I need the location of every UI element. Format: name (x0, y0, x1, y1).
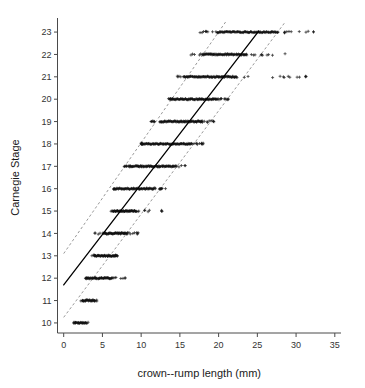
regression-fit-line (64, 31, 259, 285)
data-point (304, 75, 307, 78)
data-point (212, 120, 215, 123)
x-tick-label: 5 (100, 340, 105, 350)
y-tick-label: 15 (41, 206, 51, 216)
data-point (271, 54, 274, 57)
data-point (243, 76, 246, 79)
data-point (164, 187, 167, 190)
data-point (206, 121, 209, 124)
x-tick-label: 10 (136, 340, 146, 350)
data-point (279, 75, 282, 78)
y-tick-label: 22 (41, 50, 51, 60)
data-point (211, 30, 214, 33)
data-point (312, 30, 315, 33)
x-tick-label: 0 (61, 340, 66, 350)
y-tick-label: 12 (41, 273, 51, 283)
y-tick-label: 23 (41, 27, 51, 37)
y-tick-label: 19 (41, 117, 51, 127)
data-point (119, 277, 122, 280)
y-tick-label: 11 (42, 296, 51, 306)
data-point (124, 276, 127, 279)
data-point (287, 30, 290, 33)
prediction-band-line (64, 22, 226, 254)
data-point (284, 52, 287, 55)
data-point (271, 76, 274, 79)
y-tick-label: 16 (41, 184, 51, 194)
scatter-chart: 1011121314151617181920212223051015202530… (0, 0, 365, 388)
data-point (266, 54, 269, 57)
regression-line-layer (64, 31, 259, 285)
data-point (298, 30, 301, 33)
data-point (267, 53, 270, 56)
data-point (206, 30, 209, 33)
data-point (247, 75, 250, 78)
x-tick-label: 25 (252, 340, 262, 350)
data-points-layer (72, 30, 315, 325)
data-point (250, 53, 253, 56)
data-point (298, 76, 301, 79)
x-tick-label: 15 (175, 340, 185, 350)
data-point (193, 53, 196, 56)
data-point (90, 254, 93, 257)
x-tick-label: 20 (214, 340, 224, 350)
prediction-bands-layer (64, 22, 286, 317)
data-point (179, 75, 182, 78)
y-tick-label: 18 (41, 139, 51, 149)
x-tick-label: 30 (291, 340, 301, 350)
y-tick-label: 14 (41, 229, 51, 239)
y-tick-label: 17 (41, 162, 51, 172)
y-tick-label: 13 (41, 251, 51, 261)
prediction-band-line (64, 22, 286, 317)
data-point (184, 164, 187, 167)
x-tick-label: 35 (330, 340, 340, 350)
y-axis-title: Carnegie Stage (9, 139, 21, 215)
plot-canvas: 1011121314151617181920212223051015202530… (0, 0, 365, 388)
y-tick-label: 10 (41, 318, 51, 328)
data-point (252, 54, 255, 57)
y-tick-label: 20 (41, 94, 51, 104)
y-tick-label: 21 (41, 72, 51, 82)
data-point (94, 232, 97, 235)
x-axis-title: crown--rump length (mm) (138, 367, 261, 379)
data-point (143, 209, 146, 212)
